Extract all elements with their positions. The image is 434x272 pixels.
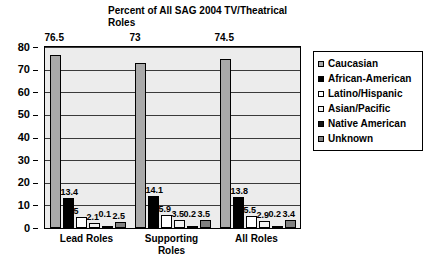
y-tick-label: 20	[18, 177, 30, 188]
x-tick-label: All Roles	[214, 233, 299, 245]
bar	[187, 226, 198, 228]
bar-value-label: 5.5	[244, 206, 257, 215]
bar-group: 74.513.85.52.90.23.4	[215, 47, 300, 228]
legend-label: Asian/Pacific	[328, 103, 390, 114]
x-tick-label-line: Roles	[129, 245, 214, 257]
bar	[148, 196, 159, 228]
legend-swatch-icon	[318, 61, 324, 67]
y-tick-label: 60	[18, 87, 30, 98]
bar	[115, 222, 126, 228]
bar-value-label: 0.2	[269, 210, 282, 219]
y-tick-label: 50	[18, 109, 30, 120]
bar	[233, 197, 244, 228]
bar	[76, 217, 87, 228]
legend-label: Latino/Hispanic	[328, 88, 402, 99]
bars-layer: 76.513.452.10.12.57314.15.93.50.23.574.5…	[45, 47, 300, 228]
bar-value-label: 13.4	[61, 188, 79, 197]
chart-title: Percent of All SAG 2004 TV/Theatrical Ro…	[108, 5, 298, 29]
bar	[285, 220, 296, 228]
bar	[200, 220, 211, 228]
bar-value-label: 2.5	[113, 212, 126, 221]
legend: CaucasianAfrican-AmericanLatino/Hispanic…	[313, 51, 423, 151]
legend-swatch-icon	[318, 91, 324, 97]
legend-item: Unknown	[318, 131, 419, 146]
bar	[259, 221, 270, 228]
x-axis: Lead RolesSupportingRolesAll Roles	[44, 233, 302, 269]
bar	[63, 198, 74, 228]
bar	[89, 223, 100, 228]
y-tick-mark	[33, 228, 38, 229]
x-tick-label-line: Lead Roles	[44, 233, 129, 245]
x-tick-label: Lead Roles	[44, 233, 129, 245]
bar-value-label: 0.2	[184, 210, 197, 219]
legend-item: Caucasian	[318, 56, 419, 71]
bar-value-label: 13.8	[231, 187, 249, 196]
bar-value-label: 0.1	[99, 210, 112, 219]
legend-item: Latino/Hispanic	[318, 86, 419, 101]
y-tick-label: 70	[18, 64, 30, 75]
legend-label: African-American	[328, 73, 411, 84]
y-tick-mark	[33, 115, 38, 116]
y-tick-label: 40	[18, 132, 30, 143]
y-tick-label: 30	[18, 155, 30, 166]
y-tick-label: 10	[18, 200, 30, 211]
y-tick-mark	[33, 47, 38, 48]
legend-label: Caucasian	[328, 58, 378, 69]
x-tick-label-line: Supporting	[129, 233, 214, 245]
legend-item: Native American	[318, 116, 419, 131]
bar	[174, 220, 185, 228]
x-tick-label-line: All Roles	[214, 233, 299, 245]
bar-group: 76.513.452.10.12.5	[45, 47, 130, 228]
y-tick-label: 0	[24, 223, 30, 234]
legend-swatch-icon	[318, 76, 324, 82]
bar	[272, 226, 283, 228]
legend-swatch-icon	[318, 121, 324, 127]
bar-value-label: 74.5	[215, 33, 234, 42]
bar-group: 7314.15.93.50.23.5	[130, 47, 215, 228]
bar-value-label: 3.4	[283, 210, 296, 219]
legend-swatch-icon	[318, 136, 324, 142]
bar	[135, 63, 146, 228]
bar-value-label: 5	[74, 207, 79, 216]
bar	[50, 55, 61, 228]
bar-value-label: 5.9	[159, 205, 172, 214]
bar-value-label: 2.1	[87, 213, 100, 222]
bar-value-label: 3.5	[198, 210, 211, 219]
y-tick-label: 80	[18, 42, 30, 53]
legend-label: Native American	[328, 118, 406, 129]
x-tick-label: SupportingRoles	[129, 233, 214, 257]
legend-swatch-icon	[318, 106, 324, 112]
bar	[161, 215, 172, 228]
bar-value-label: 2.9	[257, 211, 270, 220]
y-tick-mark	[33, 138, 38, 139]
bar-value-label: 73	[130, 33, 141, 42]
y-tick-mark	[33, 70, 38, 71]
y-tick-mark	[33, 205, 38, 206]
bar	[220, 59, 231, 228]
legend-label: Unknown	[328, 133, 373, 144]
y-axis: 01020304050607080	[8, 38, 38, 234]
y-tick-mark	[33, 183, 38, 184]
bar-value-label: 3.5	[172, 210, 185, 219]
bar-value-label: 14.1	[146, 186, 164, 195]
bar-value-label: 76.5	[45, 33, 64, 42]
legend-item: Asian/Pacific	[318, 101, 419, 116]
bar	[102, 226, 113, 228]
y-tick-mark	[33, 92, 38, 93]
bar	[246, 216, 257, 228]
y-tick-mark	[33, 160, 38, 161]
legend-item: African-American	[318, 71, 419, 86]
